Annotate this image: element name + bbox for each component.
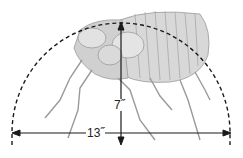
width-label: 13˝ <box>86 127 105 139</box>
height-label: 7˝ <box>113 99 126 111</box>
flea-illustration <box>45 11 210 140</box>
diagram-canvas <box>0 0 243 158</box>
